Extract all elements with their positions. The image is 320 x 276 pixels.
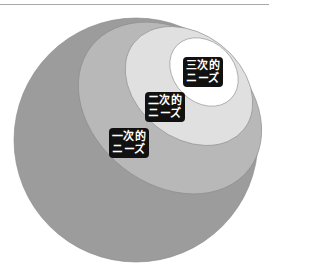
tertiary-needs-label: 三次的 ニーズ xyxy=(183,57,223,87)
primary-needs-label-line1: 一次的 xyxy=(112,130,147,143)
primary-needs-label: 一次的 ニーズ xyxy=(109,128,149,158)
secondary-needs-label-line1: 二次的 xyxy=(148,94,183,107)
secondary-needs-label-line2: ニーズ xyxy=(148,107,182,120)
tertiary-needs-label-line1: 三次的 xyxy=(186,59,221,72)
secondary-needs-label: 二次的 ニーズ xyxy=(145,92,185,122)
tertiary-needs-label-line2: ニーズ xyxy=(186,72,220,85)
primary-needs-label-line2: ニーズ xyxy=(112,143,146,156)
